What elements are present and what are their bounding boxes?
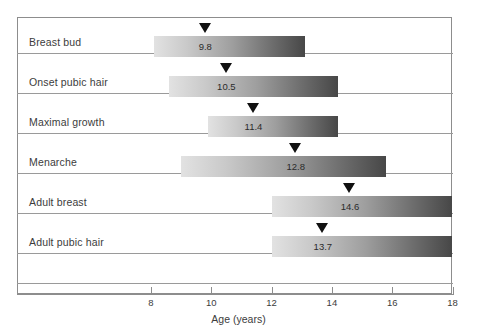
x-axis-line: [17, 294, 453, 295]
x-axis-title: Age (years): [0, 313, 477, 325]
mean-marker-adult-breast: [343, 183, 355, 193]
mean-marker-menarche: [289, 143, 301, 153]
x-axis-tick-label-10: 10: [206, 297, 217, 308]
x-axis-tick-label-18: 18: [447, 297, 458, 308]
x-axis-tick-18: [453, 287, 454, 295]
bar-value-maximal-growth: 11.4: [234, 116, 274, 137]
range-bar-maximal-growth: 11.4: [208, 116, 338, 137]
x-axis-tick-8: [151, 287, 152, 295]
category-label-adult-breast: Adult breast: [29, 196, 87, 208]
mean-marker-adult-pubic-hair: [316, 223, 328, 233]
x-axis-tick-label-16: 16: [387, 297, 398, 308]
mean-marker-breast-bud: [199, 23, 211, 33]
puberty-milestones-chart: Breast bud Onset pubic hair Maximal grow…: [0, 0, 477, 332]
bar-value-breast-bud: 9.8: [185, 36, 225, 57]
x-axis-tick-label-8: 8: [148, 297, 153, 308]
bar-value-onset-pubic-hair: 10.5: [206, 76, 246, 97]
x-axis-tick-14: [332, 287, 333, 295]
category-label-maximal-growth: Maximal growth: [29, 116, 105, 128]
x-axis-tick-12: [272, 287, 273, 295]
bar-value-menarche: 12.8: [276, 156, 316, 177]
x-axis-tick-10: [211, 287, 212, 295]
range-bar-adult-breast: 14.6: [272, 196, 453, 217]
row-separator-7: [17, 283, 453, 284]
mean-marker-maximal-growth: [247, 103, 259, 113]
x-axis-tick-label-14: 14: [327, 297, 338, 308]
range-bar-adult-pubic-hair: 13.7: [272, 236, 453, 257]
category-label-adult-pubic-hair: Adult pubic hair: [29, 236, 104, 248]
range-bar-onset-pubic-hair: 10.5: [169, 76, 338, 97]
range-bar-breast-bud: 9.8: [154, 36, 305, 57]
bar-value-adult-breast: 14.6: [330, 196, 370, 217]
category-label-onset-pubic-hair: Onset pubic hair: [29, 76, 108, 88]
x-axis-tick-16: [392, 287, 393, 295]
bar-value-adult-pubic-hair: 13.7: [303, 236, 343, 257]
category-label-breast-bud: Breast bud: [29, 36, 81, 48]
x-axis-tick-label-12: 12: [266, 297, 277, 308]
category-label-menarche: Menarche: [29, 156, 77, 168]
range-bar-menarche: 12.8: [181, 156, 386, 177]
mean-marker-onset-pubic-hair: [220, 63, 232, 73]
